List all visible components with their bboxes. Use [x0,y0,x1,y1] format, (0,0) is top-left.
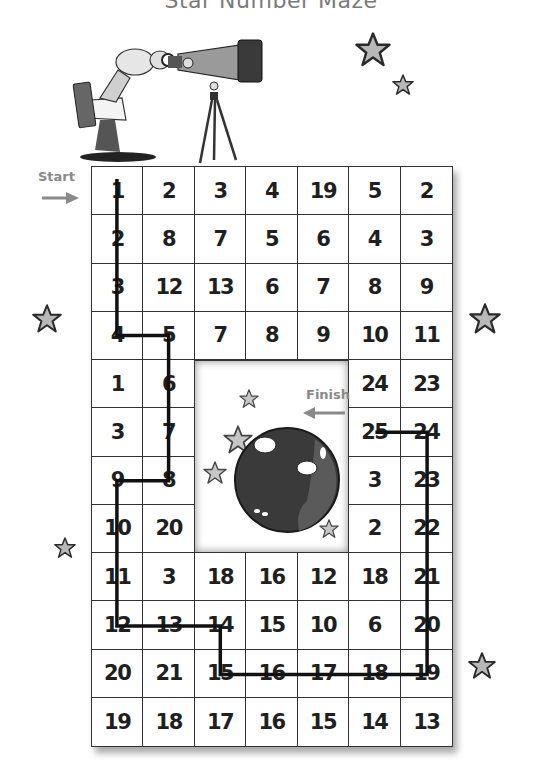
maze-cell[interactable]: 9 [401,264,452,312]
maze-cell[interactable]: 19 [298,167,349,215]
maze-cell[interactable]: 20 [92,650,143,698]
star-icon [357,34,390,66]
maze-cell[interactable]: 15 [195,650,246,698]
maze-cell[interactable]: 12 [92,601,143,649]
maze-cell[interactable]: 7 [143,408,194,456]
star-icon [469,653,495,678]
start-label: Start [38,169,75,184]
maze-cell[interactable]: 8 [246,312,297,360]
maze-cell[interactable]: 7 [195,215,246,263]
maze-cell[interactable]: 1 [92,360,143,408]
maze-cell[interactable]: 3 [143,553,194,601]
star-icon [320,519,338,537]
maze-cell[interactable]: 12 [298,553,349,601]
maze-cell[interactable]: 17 [298,650,349,698]
star-icon [393,75,413,94]
maze-cell[interactable]: 18 [349,650,400,698]
maze-cell[interactable]: 14 [349,698,400,746]
maze-cell[interactable]: 3 [92,408,143,456]
start-arrow-icon [42,190,82,206]
maze-cell[interactable]: 22 [401,505,452,553]
maze-cell[interactable]: 7 [298,264,349,312]
maze-cell[interactable]: 5 [349,167,400,215]
maze-cell[interactable]: 2 [143,167,194,215]
maze-cell[interactable]: 11 [92,553,143,601]
maze-cell[interactable]: 15 [246,601,297,649]
maze-cell[interactable]: 13 [143,601,194,649]
maze-cell[interactable]: 2 [349,505,400,553]
maze-cell[interactable]: 12 [143,264,194,312]
maze-cell[interactable]: 5 [143,312,194,360]
maze-cell[interactable]: 16 [246,698,297,746]
maze-cell[interactable]: 16 [246,553,297,601]
maze-cell[interactable]: 24 [401,408,452,456]
maze-board: 1234195228756433121367894578910111624233… [91,166,453,747]
maze-cell[interactable]: 9 [92,457,143,505]
maze-cell[interactable]: 6 [143,360,194,408]
maze-cell[interactable]: 3 [195,167,246,215]
maze-cell[interactable]: 1 [92,167,143,215]
maze-cell[interactable]: 6 [298,215,349,263]
maze-cell[interactable]: 14 [195,601,246,649]
maze-cell[interactable]: 3 [349,457,400,505]
maze-cell[interactable]: 19 [92,698,143,746]
maze-cell[interactable]: 23 [401,457,452,505]
maze-cell[interactable]: 15 [298,698,349,746]
star-icon [470,304,499,332]
maze-cell[interactable]: 7 [195,312,246,360]
maze-cell[interactable]: 11 [401,312,452,360]
maze-cell[interactable]: 4 [92,312,143,360]
maze-cell[interactable]: 18 [195,553,246,601]
maze-cell[interactable]: 17 [195,698,246,746]
maze-cell[interactable]: 6 [246,264,297,312]
maze-cell[interactable]: 8 [349,264,400,312]
maze-cell[interactable]: 16 [246,650,297,698]
maze-cell[interactable]: 21 [401,553,452,601]
telescope-icon [168,40,262,163]
star-icon [55,538,75,557]
maze-cell[interactable]: 6 [349,601,400,649]
maze-cell[interactable]: 18 [143,698,194,746]
maze-cell[interactable]: 3 [401,215,452,263]
maze-cell[interactable]: 10 [298,601,349,649]
star-icon [204,462,226,483]
maze-cell[interactable]: 13 [195,264,246,312]
maze-cell[interactable]: 23 [401,360,452,408]
maze-cell[interactable]: 21 [143,650,194,698]
maze-cell[interactable]: 8 [143,457,194,505]
maze-cell[interactable]: 8 [143,215,194,263]
scientist-icon [73,49,174,162]
maze-cell[interactable]: 25 [349,408,400,456]
maze-cell[interactable]: 4 [349,215,400,263]
maze-cell[interactable]: 24 [349,360,400,408]
maze-cell[interactable]: 18 [349,553,400,601]
maze-cell[interactable]: 3 [92,264,143,312]
maze-cell[interactable]: 2 [92,215,143,263]
maze-cell[interactable]: 20 [401,601,452,649]
maze-cell[interactable]: 10 [349,312,400,360]
maze-cell[interactable]: 5 [246,215,297,263]
maze-cell[interactable]: 13 [401,698,452,746]
planet-icon [235,428,339,532]
finish-label: Finish [306,387,350,402]
maze-cell[interactable]: 9 [298,312,349,360]
maze-cell[interactable]: 2 [401,167,452,215]
maze-cell[interactable]: 20 [143,505,194,553]
star-icon [33,305,61,331]
maze-cell[interactable]: 10 [92,505,143,553]
maze-cell[interactable]: 19 [401,650,452,698]
maze-cell[interactable]: 4 [246,167,297,215]
star-icon [240,389,258,407]
